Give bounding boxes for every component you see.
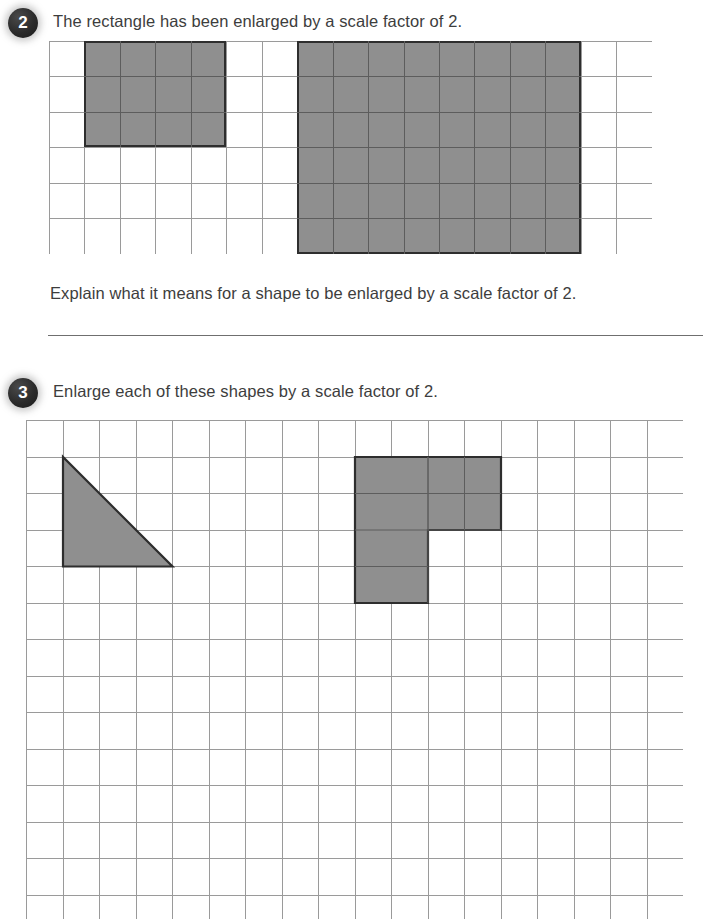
question-number-badge-3: 3 (8, 378, 38, 408)
shape-inner-grid-line (297, 183, 581, 184)
shape-inner-grid-line (297, 112, 581, 113)
grid-line-horizontal (26, 822, 683, 823)
grid-line-horizontal (26, 712, 683, 713)
question-2-sub-prompt: Explain what it means for a shape to be … (50, 284, 576, 303)
question-2-prompt: The rectangle has been enlarged by a sca… (53, 12, 462, 31)
grid-line-horizontal (26, 639, 683, 640)
l-shape (352, 454, 504, 606)
question-3-grid (26, 420, 683, 919)
question-number-badge-2: 2 (8, 8, 38, 38)
shape-inner-grid-line (297, 147, 581, 148)
grid-line-vertical (282, 420, 283, 919)
grid-line-vertical (574, 420, 575, 919)
shape-inner-grid-line (297, 76, 581, 77)
triangle-outline (63, 457, 173, 567)
shape-inner-grid-line (191, 41, 192, 147)
shape-inner-grid-line (84, 112, 226, 113)
grid-line-horizontal (26, 785, 683, 786)
grid-line-horizontal (26, 895, 683, 896)
grid-line-horizontal (26, 858, 683, 859)
shape-inner-grid-line (155, 41, 156, 147)
shape-inner-grid-line (84, 76, 226, 77)
grid-line-horizontal (26, 749, 683, 750)
grid-line-vertical (318, 420, 319, 919)
triangle-shape (60, 454, 176, 570)
question-2-answer-line[interactable] (48, 335, 703, 336)
grid-line-vertical (209, 420, 210, 919)
grid-line-vertical (26, 420, 27, 919)
question-3-prompt: Enlarge each of these shapes by a scale … (53, 382, 438, 401)
grid-line-horizontal (26, 420, 683, 421)
grid-line-vertical (245, 420, 246, 919)
grid-line-horizontal (26, 676, 683, 677)
grid-line-vertical (537, 420, 538, 919)
shape-inner-grid-line (297, 218, 581, 219)
grid-line-vertical (610, 420, 611, 919)
question-2-grid (49, 41, 652, 254)
shape-inner-grid-line (120, 41, 121, 147)
grid-line-vertical (647, 420, 648, 919)
